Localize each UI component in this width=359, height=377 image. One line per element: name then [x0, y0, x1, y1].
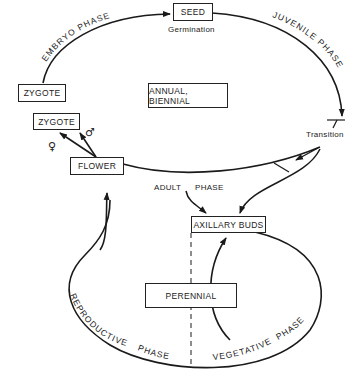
- axillary-buds-node: AXILLARY BUDS: [191, 216, 266, 233]
- annual-biennial-node: ANNUAL, BIENNIAL: [148, 83, 228, 108]
- vegetative-phase-word: PHASE: [274, 314, 306, 342]
- transition-label: Transition: [306, 130, 344, 139]
- juvenile-phase-label: JUVENILE PHASE: [271, 9, 345, 69]
- embryo-phase-arrow: [43, 14, 170, 83]
- juvenile-phase-arrow: [212, 13, 342, 116]
- flower-node: FLOWER: [70, 157, 124, 175]
- female-symbol: ♀: [48, 140, 56, 153]
- seed-node: SEED: [173, 3, 213, 21]
- reproductive-phase-label: REPRODUCTIVE: [68, 292, 129, 348]
- zygote-node: ZYGOTE: [18, 84, 66, 102]
- adult-label: ADULT: [154, 183, 181, 192]
- male-symbol: ♂: [85, 126, 95, 139]
- embryo-phase-label: EMBRYO PHASE: [39, 10, 111, 63]
- vegetative-phase-label: VEGETATIVE: [212, 336, 273, 362]
- germination-label: Germination: [168, 25, 215, 34]
- perennial-node: PERENNIAL: [145, 283, 237, 308]
- zygote-small-node: ZYGOTE: [33, 113, 80, 130]
- adult-phase-label: PHASE: [195, 183, 224, 192]
- transition-to-axillary-arrow: [240, 149, 320, 213]
- adult-to-axillary-arrow: [186, 191, 206, 213]
- transition-to-flower-arrow: [123, 147, 320, 172]
